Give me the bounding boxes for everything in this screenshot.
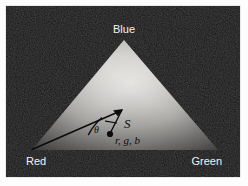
vertex-label-green: Green [191, 155, 222, 167]
annotation-label-rgb: r, g, b [115, 134, 141, 146]
figure-container: Blue Red Green S θ r, g, b [0, 0, 248, 186]
annotation-label-s: S [124, 116, 131, 131]
figure-plot-area: Blue Red Green S θ r, g, b [6, 6, 240, 177]
rgb-point-marker [107, 131, 113, 137]
rgb-triangle-figure: Blue Red Green S θ r, g, b [0, 0, 248, 186]
vertex-label-blue: Blue [113, 23, 135, 35]
vertex-label-red: Red [26, 155, 46, 167]
annotation-label-theta: θ [94, 124, 99, 135]
